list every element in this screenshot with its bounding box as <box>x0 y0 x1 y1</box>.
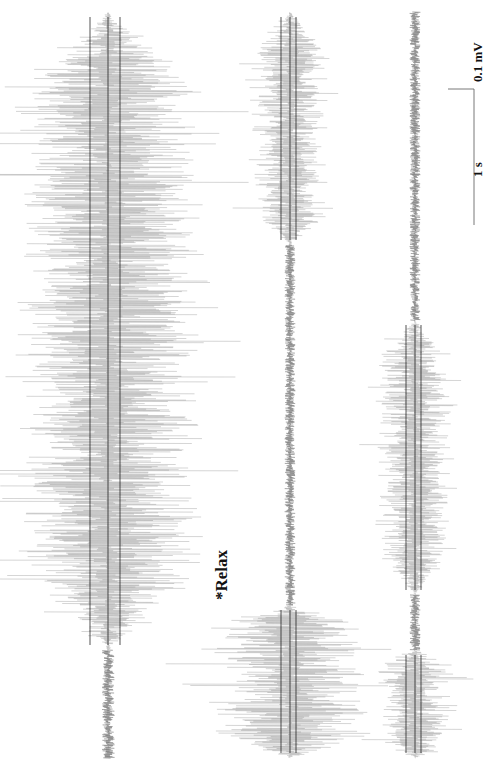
relax-annotation: *Relax <box>212 550 232 600</box>
scale-bar <box>448 89 474 225</box>
time-scale-label: 1 s <box>470 162 486 177</box>
emg-traces <box>0 0 504 771</box>
emg-trace-2 <box>166 12 392 758</box>
emg-trace-1 <box>0 12 249 758</box>
emg-figure: *Relax 0.1 mV 1 s <box>0 0 504 771</box>
amplitude-scale-label: 0.1 mV <box>470 42 486 82</box>
emg-trace-3 <box>359 12 473 758</box>
